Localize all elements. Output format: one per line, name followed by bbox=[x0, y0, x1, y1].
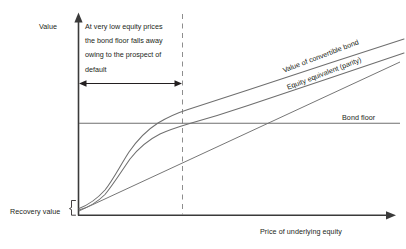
recovery-value-brace bbox=[70, 201, 76, 216]
recovery-value-label: Recovery value bbox=[10, 208, 60, 215]
annotation-line-2: the bond floor falls away bbox=[85, 34, 189, 48]
chart-canvas: Value Price of underlying equity Recover… bbox=[0, 0, 406, 249]
bond-floor-label: Bond floor bbox=[342, 114, 375, 121]
annotation-line-3: owing to the prospect of bbox=[85, 48, 189, 62]
annotation-text-block: At very low equity prices the bond floor… bbox=[85, 20, 189, 77]
annotation-span-arrow bbox=[79, 80, 182, 86]
parity-straight-line bbox=[79, 62, 400, 211]
x-axis bbox=[78, 211, 396, 219]
x-axis-label: Price of underlying equity bbox=[260, 228, 342, 235]
y-axis bbox=[74, 13, 82, 216]
annotation-line-1: At very low equity prices bbox=[85, 20, 189, 34]
chart-svg bbox=[0, 0, 406, 249]
y-axis-label: Value bbox=[39, 23, 57, 30]
annotation-line-4: default bbox=[85, 63, 189, 77]
